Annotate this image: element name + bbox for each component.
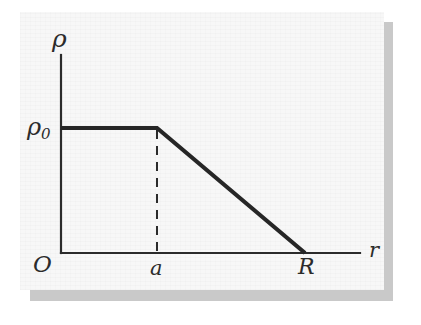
- x-tick-label-a: a: [150, 258, 163, 279]
- rho-subscript-zero: 0: [41, 125, 51, 143]
- density-curve: [61, 128, 305, 253]
- y-axis-label: ρ: [52, 26, 67, 51]
- x-axis-label: r: [369, 240, 379, 261]
- x-tick-label-R: R: [298, 256, 315, 278]
- origin-label: O: [33, 253, 52, 276]
- y-value-rho-zero-label: ρ0: [27, 115, 51, 142]
- rho-glyph: ρ: [27, 113, 41, 141]
- figure-screenshot: ρ ρ0 O a R r: [0, 0, 421, 325]
